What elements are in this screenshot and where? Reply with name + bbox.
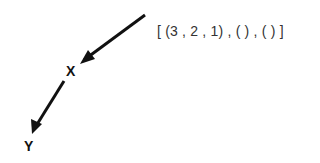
node-y-label: Y <box>24 139 33 153</box>
node-x-label: X <box>66 64 75 78</box>
annotation-text: [ (3 , 2 , 1) , ( ) , ( ) ] <box>157 24 284 38</box>
arrow-entry-to-x <box>80 15 145 64</box>
arrow-x-to-y <box>31 81 64 134</box>
